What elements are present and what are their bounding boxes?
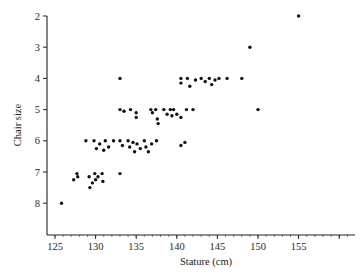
x-tick-label: 135 xyxy=(128,241,144,252)
data-point xyxy=(95,147,98,150)
y-tick-label: 8 xyxy=(35,198,40,209)
data-point xyxy=(118,77,121,80)
x-tick-label: 145 xyxy=(210,241,226,252)
data-point xyxy=(155,139,158,142)
data-point xyxy=(213,78,216,81)
data-point xyxy=(179,77,182,80)
data-point xyxy=(129,108,132,111)
data-point xyxy=(256,108,259,111)
data-point xyxy=(84,139,87,142)
data-point xyxy=(88,186,91,189)
y-tick-label: 7 xyxy=(35,167,40,178)
y-tick-label: 5 xyxy=(35,104,40,115)
data-point xyxy=(128,145,131,148)
scatter-chart: 2345678 125130135140145150155 Stature (c… xyxy=(0,0,364,279)
data-point xyxy=(217,77,220,80)
data-point xyxy=(172,108,175,111)
data-point xyxy=(156,117,159,120)
y-tick-label: 3 xyxy=(35,42,40,53)
data-point xyxy=(188,85,191,88)
y-tick-label: 6 xyxy=(35,135,40,146)
data-point xyxy=(169,108,172,111)
data-point xyxy=(149,108,152,111)
data-point xyxy=(102,149,105,152)
data-point xyxy=(240,77,243,80)
data-point xyxy=(147,150,150,153)
data-point xyxy=(179,116,182,119)
data-point xyxy=(150,142,153,145)
data-point xyxy=(118,108,121,111)
data-point xyxy=(186,77,189,80)
data-point xyxy=(248,46,251,49)
data-point xyxy=(156,122,159,125)
x-tick-label: 155 xyxy=(291,241,307,252)
data-point xyxy=(139,147,142,150)
data-point xyxy=(104,139,107,142)
data-point xyxy=(107,145,110,148)
data-point xyxy=(135,116,138,119)
data-point xyxy=(112,139,115,142)
data-point xyxy=(185,108,188,111)
x-axis: 125130135140145150155 xyxy=(47,235,355,252)
y-axis: 2345678 xyxy=(35,11,47,236)
data-point xyxy=(179,144,182,147)
data-point xyxy=(118,172,121,175)
data-point xyxy=(135,111,138,114)
data-point xyxy=(92,139,95,142)
data-point xyxy=(87,175,90,178)
x-tick-label: 140 xyxy=(169,241,185,252)
data-point xyxy=(126,139,129,142)
data-point xyxy=(76,175,79,178)
data-point xyxy=(96,175,99,178)
data-point xyxy=(183,141,186,144)
data-point xyxy=(121,144,124,147)
data-point xyxy=(122,110,125,113)
data-point xyxy=(194,78,197,81)
data-point xyxy=(210,83,213,86)
data-point xyxy=(170,114,173,117)
data-point xyxy=(204,80,207,83)
x-axis-title: Stature (cm) xyxy=(180,256,233,268)
data-point xyxy=(154,108,157,111)
data-point xyxy=(94,178,97,181)
data-point xyxy=(133,150,136,153)
data-point xyxy=(98,142,101,145)
data-point xyxy=(200,77,203,80)
data-point xyxy=(144,145,147,148)
data-point xyxy=(75,172,78,175)
data-point xyxy=(143,139,146,142)
data-point xyxy=(179,81,182,84)
data-point xyxy=(131,141,134,144)
data-point xyxy=(100,172,103,175)
x-tick-label: 125 xyxy=(47,241,63,252)
data-point xyxy=(191,108,194,111)
data-point xyxy=(225,77,228,80)
data-point xyxy=(93,172,96,175)
data-point xyxy=(297,14,300,17)
data-points xyxy=(60,14,300,205)
data-point xyxy=(162,108,165,111)
data-point xyxy=(175,113,178,116)
data-point xyxy=(91,181,94,184)
y-tick-label: 2 xyxy=(35,11,40,22)
data-point xyxy=(165,113,168,116)
data-point xyxy=(118,139,121,142)
data-point xyxy=(72,178,75,181)
data-point xyxy=(60,202,63,205)
data-point xyxy=(135,142,138,145)
y-tick-label: 4 xyxy=(35,73,41,84)
y-axis-title: Chair size xyxy=(12,104,23,147)
data-point xyxy=(101,180,104,183)
data-point xyxy=(151,111,154,114)
x-tick-label: 130 xyxy=(88,241,104,252)
data-point xyxy=(208,77,211,80)
x-tick-label: 150 xyxy=(250,241,266,252)
